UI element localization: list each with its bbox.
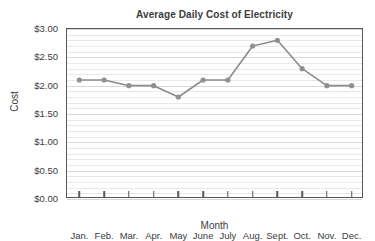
x-axis-tick-label: Apr.: [145, 230, 162, 241]
x-axis-tick-label: Aug.: [243, 230, 263, 241]
data-point: [324, 83, 329, 88]
x-axis-tick-label: July: [219, 230, 236, 241]
x-axis-tick-label: Jan.: [70, 230, 88, 241]
y-axis-tick-label: $2.50: [14, 51, 58, 62]
x-axis-tick-label: Sept.: [266, 230, 288, 241]
gridline: [67, 199, 362, 200]
x-axis-tick-label: June: [193, 230, 214, 241]
data-point: [275, 38, 280, 43]
y-axis-tick-label: $3.00: [14, 23, 58, 34]
y-axis-tick-label: $2.00: [14, 79, 58, 90]
data-point: [349, 83, 354, 88]
plot-area: Jan.Feb.Mar.Apr.MayJuneJulyAug.Sept.Oct.…: [66, 28, 363, 198]
chart-title: Average Daily Cost of Electricity: [66, 9, 363, 20]
data-point: [126, 83, 131, 88]
series-markers: [77, 38, 354, 100]
data-series-electricity-cost: [67, 29, 364, 199]
x-axis-tick-label: Mar.: [120, 230, 138, 241]
data-point: [300, 66, 305, 71]
data-point: [102, 77, 107, 82]
x-axis-tick-label: Nov.: [317, 230, 336, 241]
data-point: [151, 83, 156, 88]
data-point: [225, 77, 230, 82]
data-point: [77, 77, 82, 82]
data-point: [201, 77, 206, 82]
data-point: [176, 94, 181, 99]
data-point: [250, 43, 255, 48]
x-axis-tick-label: Feb.: [95, 230, 114, 241]
y-axis-tick-label: $1.00: [14, 136, 58, 147]
x-axis-tick-label: Oct.: [293, 230, 310, 241]
x-axis-tick-label: Dec.: [342, 230, 362, 241]
chart-figure: Average Daily Cost of Electricity Cost M…: [0, 0, 375, 241]
y-axis-tick-label: $1.50: [14, 108, 58, 119]
y-axis-tick-label: $0.50: [14, 164, 58, 175]
y-axis-tick-label: $0.00: [14, 193, 58, 204]
x-axis-tick-label: May: [169, 230, 187, 241]
series-line: [79, 40, 351, 97]
